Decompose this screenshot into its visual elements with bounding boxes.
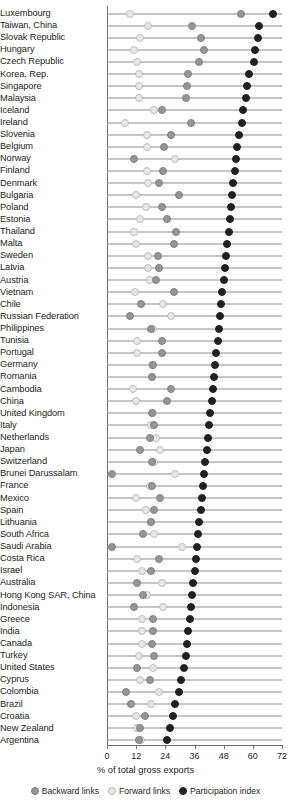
data-point-forward xyxy=(143,131,151,139)
legend-label: Backward links xyxy=(42,786,99,796)
data-point-participation xyxy=(188,591,196,599)
data-point-forward xyxy=(144,22,152,30)
data-point-backward xyxy=(152,276,160,284)
data-point-backward xyxy=(146,676,154,684)
data-point-backward xyxy=(130,155,138,163)
data-point-participation xyxy=(201,458,209,466)
data-point-participation xyxy=(216,312,224,320)
legend-item-backward: Backward links xyxy=(31,786,99,796)
data-point-participation xyxy=(187,603,195,611)
data-point-forward xyxy=(167,312,175,320)
data-point-forward xyxy=(133,349,141,357)
data-point-participation xyxy=(183,640,191,648)
data-point-backward xyxy=(187,119,195,127)
data-point-backward xyxy=(149,627,157,635)
data-point-backward xyxy=(126,312,134,320)
data-point-forward xyxy=(126,10,134,18)
data-point-participation xyxy=(184,627,192,635)
row-baseline xyxy=(107,631,282,632)
legend-item-participation: Participation index xyxy=(179,786,260,796)
data-point-participation xyxy=(250,58,258,66)
country-label: Argentina xyxy=(0,733,104,748)
data-point-participation xyxy=(217,300,225,308)
data-point-participation xyxy=(255,22,263,30)
data-point-backward xyxy=(197,34,205,42)
data-point-forward xyxy=(130,46,138,54)
data-point-participation xyxy=(242,94,250,102)
data-point-participation xyxy=(195,518,203,526)
data-point-backward xyxy=(136,446,144,454)
data-point-forward xyxy=(159,300,167,308)
data-point-participation xyxy=(227,203,235,211)
data-point-participation xyxy=(232,155,240,163)
data-point-forward xyxy=(149,664,157,672)
plot-area xyxy=(107,6,282,745)
data-point-participation xyxy=(191,567,199,575)
data-point-forward xyxy=(143,143,151,151)
data-point-backward xyxy=(183,82,191,90)
data-point-participation xyxy=(197,506,205,514)
data-point-backward xyxy=(127,700,135,708)
data-point-backward xyxy=(150,652,158,660)
row-baseline xyxy=(107,280,282,281)
data-point-backward xyxy=(155,179,163,187)
x-axis-tick xyxy=(253,745,254,749)
data-point-forward xyxy=(171,470,179,478)
row-baseline xyxy=(107,146,282,147)
row-baseline xyxy=(107,619,282,620)
data-point-forward xyxy=(135,652,143,660)
row-baseline xyxy=(107,437,282,438)
data-point-participation xyxy=(254,34,262,42)
data-point-forward xyxy=(138,615,146,623)
data-point-backward xyxy=(170,288,178,296)
data-point-participation xyxy=(192,555,200,563)
x-axis-tick-label: 12 xyxy=(131,751,141,761)
legend-label: Forward links xyxy=(119,786,170,796)
data-point-backward xyxy=(170,240,178,248)
x-axis-tick xyxy=(165,745,166,749)
data-point-forward xyxy=(132,712,140,720)
data-point-backward xyxy=(175,191,183,199)
data-point-participation xyxy=(175,688,183,696)
x-axis-tick-label: 60 xyxy=(248,751,258,761)
data-point-backward xyxy=(184,70,192,78)
data-point-backward xyxy=(160,143,168,151)
data-point-participation xyxy=(225,228,233,236)
data-point-participation xyxy=(177,676,185,684)
dot-plot-chart: LuxembourgTaiwan, ChinaSlovak RepublicHu… xyxy=(0,0,291,810)
row-baseline xyxy=(107,376,282,377)
data-point-participation xyxy=(235,131,243,139)
data-point-forward xyxy=(150,530,158,538)
row-baseline xyxy=(107,98,282,99)
data-point-participation xyxy=(169,712,177,720)
data-point-forward xyxy=(136,34,144,42)
data-point-backward xyxy=(200,46,208,54)
data-point-backward xyxy=(167,385,175,393)
data-point-backward xyxy=(150,421,158,429)
data-point-participation xyxy=(215,325,223,333)
data-point-backward xyxy=(155,555,163,563)
x-axis-tick-label: 36 xyxy=(189,751,199,761)
data-point-participation xyxy=(166,724,174,732)
data-point-backward xyxy=(133,579,141,587)
data-point-participation xyxy=(228,191,236,199)
data-point-participation xyxy=(171,700,179,708)
data-point-forward xyxy=(132,494,140,502)
data-point-backward xyxy=(148,640,156,648)
row-baseline xyxy=(107,74,282,75)
data-point-participation xyxy=(221,264,229,272)
x-axis-tick-label: 24 xyxy=(160,751,170,761)
data-point-forward xyxy=(142,506,150,514)
data-point-forward xyxy=(132,397,140,405)
x-axis-tick xyxy=(282,745,283,749)
data-point-backward xyxy=(163,215,171,223)
data-point-forward xyxy=(138,640,146,648)
row-baseline xyxy=(107,255,282,256)
data-point-participation xyxy=(209,385,217,393)
data-point-backward xyxy=(158,337,166,345)
data-point-backward xyxy=(147,325,155,333)
data-point-forward xyxy=(135,82,143,90)
legend-swatch-participation-icon xyxy=(179,787,187,795)
data-point-participation xyxy=(193,543,201,551)
row-baseline xyxy=(107,679,282,680)
